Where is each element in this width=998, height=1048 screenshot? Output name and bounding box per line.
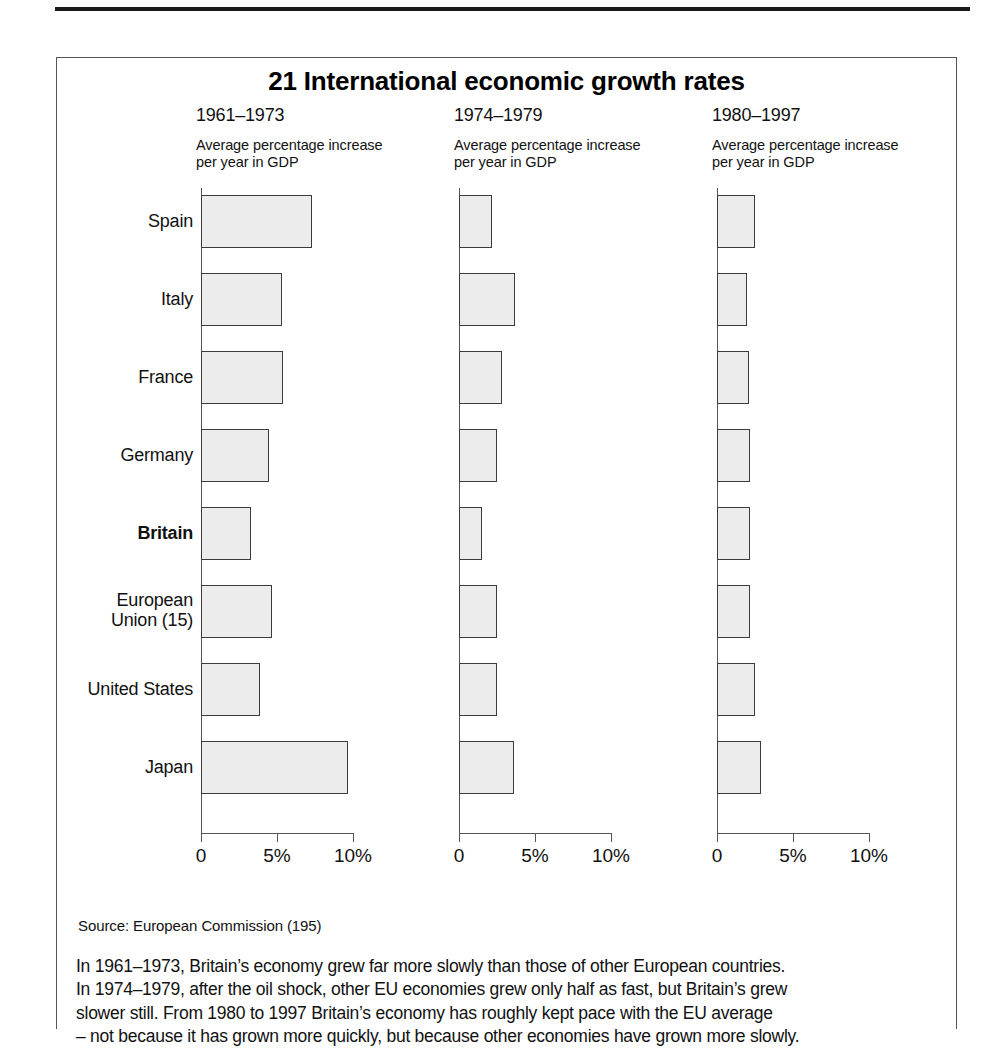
bar xyxy=(459,195,492,248)
bar xyxy=(459,741,514,794)
x-axis-tick xyxy=(869,833,870,842)
category-label: Britain xyxy=(33,523,193,544)
panel-subtitle: Average percentage increase per year in … xyxy=(712,137,898,171)
category-label: Japan xyxy=(33,757,193,778)
bar xyxy=(717,585,750,638)
x-axis-tick-label: 10% xyxy=(592,845,630,867)
category-label: United States xyxy=(33,679,193,700)
category-label: European Union (15) xyxy=(33,590,193,632)
category-label: Spain xyxy=(33,211,193,232)
page-title: 21 International economic growth rates xyxy=(56,66,957,97)
x-axis-tick-label: 5% xyxy=(521,845,548,867)
plot-area-3: 05%10% xyxy=(717,188,873,833)
bar xyxy=(717,351,749,404)
bar xyxy=(201,507,251,560)
bar xyxy=(201,741,348,794)
x-axis-tick-label: 5% xyxy=(263,845,290,867)
panel-header-2: 1974–1979Average percentage increase per… xyxy=(454,105,640,171)
panel-header-3: 1980–1997Average percentage increase per… xyxy=(712,105,898,171)
bar xyxy=(717,195,755,248)
plot-area-2: 05%10% xyxy=(459,188,615,833)
x-axis-tick-label: 0 xyxy=(454,845,465,867)
bar xyxy=(459,507,482,560)
category-label: Germany xyxy=(33,445,193,466)
category-label: France xyxy=(33,367,193,388)
x-axis-tick xyxy=(459,833,460,842)
bar xyxy=(717,507,750,560)
x-axis-tick xyxy=(277,833,278,842)
x-axis-tick-label: 10% xyxy=(850,845,888,867)
bar xyxy=(201,429,269,482)
top-rule xyxy=(55,7,970,11)
x-axis-tick xyxy=(717,833,718,842)
x-axis-tick xyxy=(611,833,612,842)
x-axis-tick-label: 0 xyxy=(196,845,207,867)
panel-subtitle: Average percentage increase per year in … xyxy=(196,137,382,171)
source-note: Source: European Commission (195) xyxy=(78,917,321,934)
bar xyxy=(459,585,497,638)
plot-area-1: 05%10% xyxy=(201,188,357,833)
panel-period-label: 1980–1997 xyxy=(712,105,898,126)
bar xyxy=(201,195,312,248)
bar xyxy=(201,585,272,638)
x-axis-tick-label: 0 xyxy=(712,845,723,867)
x-axis-tick-label: 5% xyxy=(779,845,806,867)
x-axis-tick xyxy=(535,833,536,842)
bar xyxy=(201,663,260,716)
bar xyxy=(459,351,502,404)
bar xyxy=(201,351,283,404)
x-axis-tick xyxy=(353,833,354,842)
bar xyxy=(717,429,750,482)
bar xyxy=(717,273,747,326)
bar xyxy=(717,663,755,716)
bar xyxy=(459,429,497,482)
figure-caption: In 1961–1973, Britain’s economy grew far… xyxy=(76,955,952,1048)
bar xyxy=(717,741,761,794)
x-axis-tick xyxy=(201,833,202,842)
panel-period-label: 1961–1973 xyxy=(196,105,382,126)
panel-period-label: 1974–1979 xyxy=(454,105,640,126)
panel-subtitle: Average percentage increase per year in … xyxy=(454,137,640,171)
x-axis-tick-label: 10% xyxy=(334,845,372,867)
bar xyxy=(459,663,497,716)
panel-header-1: 1961–1973Average percentage increase per… xyxy=(196,105,382,171)
category-label-column: SpainItalyFranceGermanyBritainEuropean U… xyxy=(28,188,193,833)
category-label: Italy xyxy=(33,289,193,310)
x-axis-tick xyxy=(793,833,794,842)
bar xyxy=(459,273,515,326)
bar xyxy=(201,273,282,326)
